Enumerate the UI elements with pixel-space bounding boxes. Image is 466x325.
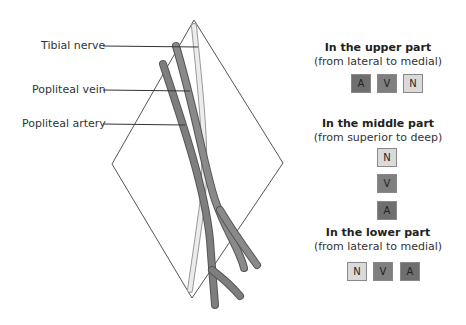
middle-box-vein: V — [377, 174, 397, 193]
lower-box-nerve: N — [347, 262, 367, 281]
upper-box-artery: A — [351, 74, 371, 93]
upper-box-nerve: N — [403, 74, 423, 93]
legend-upper-title: In the upper part — [290, 41, 466, 55]
lower-box-vein: V — [373, 262, 393, 281]
legend-middle-title: In the middle part — [290, 117, 466, 131]
label-popliteal-vein: Popliteal vein — [32, 83, 106, 96]
legend-middle-subtitle: (from superior to deep) — [290, 131, 466, 145]
legend-lower-title: In the lower part — [290, 226, 466, 240]
legend-middle-heading: In the middle part (from superior to dee… — [290, 117, 466, 145]
legend-upper-subtitle: (from lateral to medial) — [290, 55, 466, 69]
upper-box-vein: V — [377, 74, 397, 93]
legend-lower-heading: In the lower part (from lateral to media… — [290, 226, 466, 254]
label-popliteal-artery: Popliteal artery — [22, 117, 106, 130]
leader-line-popliteal-vein — [103, 90, 190, 91]
legend-lower-subtitle: (from lateral to medial) — [290, 240, 466, 254]
label-tibial-nerve: Tibial nerve — [41, 39, 105, 52]
lower-box-artery: A — [400, 262, 420, 281]
middle-box-nerve: N — [377, 148, 397, 167]
leader-line-popliteal-artery — [103, 124, 185, 125]
leader-line-tibial-nerve — [103, 46, 198, 47]
middle-box-artery: A — [377, 201, 397, 220]
legend-upper-heading: In the upper part (from lateral to media… — [290, 41, 466, 69]
